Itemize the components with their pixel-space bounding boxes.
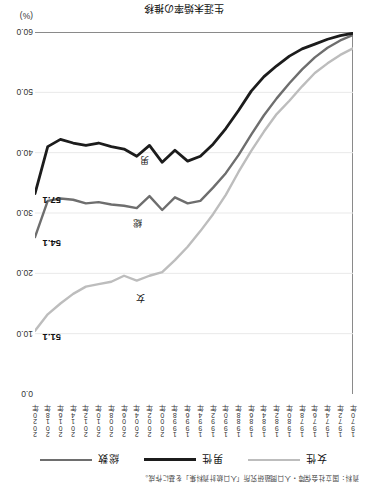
- legend-label-male: 男性: [202, 453, 223, 468]
- series-line-女性: [35, 48, 353, 330]
- x-axis-tick-label: 2012年: [82, 406, 89, 439]
- x-axis-tick-label: 1970年: [350, 406, 357, 439]
- y-axis-tick-label: 20.0: [16, 268, 33, 278]
- y-axis-tick-label: 10.0: [16, 329, 33, 339]
- x-axis-tick-label: 2004年: [133, 406, 140, 439]
- x-axis-tick-label: 1996年: [184, 406, 191, 439]
- x-axis-tick-label: 2008年: [108, 406, 115, 439]
- legend-swatch-male-icon: [145, 459, 197, 462]
- legend-label-total: 総数: [98, 453, 119, 468]
- line-chart-svg: [35, 32, 353, 394]
- x-axis-tick-label: 1974年: [324, 406, 331, 439]
- legend-swatch-female-icon: [249, 459, 301, 461]
- x-axis-tick-label: 1978年: [299, 406, 306, 439]
- series-line-男性: [35, 33, 353, 193]
- source-note: 資料：国立社会保障・人口問題研究所「人口統計資料集」を基に作成。: [8, 474, 359, 484]
- x-axis-tick-label: 1998年: [171, 406, 178, 439]
- page-title: 生涯未婚率の推移: [0, 2, 367, 17]
- x-axis-tick-label: 2018年: [44, 406, 51, 439]
- x-axis-tick-label: 1982年: [273, 406, 280, 439]
- y-axis-tick-label: 60.0: [16, 27, 33, 37]
- plot-area: [35, 32, 353, 394]
- x-axis-tick-label: 1990年: [222, 406, 229, 439]
- x-axis-tick-label: 1986年: [248, 406, 255, 439]
- y-axis-labels: 0.010.020.030.040.050.060.0: [2, 32, 33, 394]
- legend-item-male[interactable]: 男性: [145, 453, 223, 468]
- chart-legend: 女性 男性 総数: [0, 448, 367, 472]
- x-axis-tick-label: 2020年: [32, 406, 39, 439]
- x-axis-tick-label: 2002年: [146, 406, 153, 439]
- series-annotation: 女: [136, 292, 145, 305]
- end-value-label-男性: 57.1: [43, 195, 62, 206]
- rotated-figure-container: 資料：国立社会保障・人口問題研究所「人口統計資料集」を基に作成。 女性 男性 総…: [0, 0, 367, 486]
- y-axis-tick-label: 50.0: [16, 87, 33, 97]
- x-axis-tick-label: 1984年: [260, 406, 267, 439]
- legend-swatch-total-icon: [41, 459, 93, 461]
- x-axis-labels: 1970年1972年1974年1976年1978年1980年1982年1984年…: [35, 396, 353, 438]
- x-axis-tick-label: 2006年: [121, 406, 128, 439]
- x-axis-tick-label: 1994年: [197, 406, 204, 439]
- end-value-label-総数: 54.1: [43, 238, 62, 249]
- x-axis-tick-label: 1980年: [286, 406, 293, 439]
- x-axis-tick-label: 2000年: [159, 406, 166, 439]
- legend-item-total[interactable]: 総数: [41, 453, 119, 468]
- x-axis-tick-label: 1972年: [337, 406, 344, 439]
- y-axis-tick-label: 0.0: [21, 389, 33, 399]
- legend-label-female: 女性: [306, 453, 327, 468]
- y-axis-tick-label: 30.0: [16, 208, 33, 218]
- x-axis-tick-label: 1988年: [235, 406, 242, 439]
- series-annotation: 男: [140, 154, 149, 167]
- end-value-label-女性: 51.1: [43, 332, 62, 343]
- x-axis-tick-label: 1976年: [311, 406, 318, 439]
- x-axis-tick-label: 2016年: [57, 406, 64, 439]
- legend-item-female[interactable]: 女性: [249, 453, 327, 468]
- x-axis-tick-label: 2010年: [95, 406, 102, 439]
- x-axis-tick-label: 2014年: [70, 406, 77, 439]
- y-axis-tick-label: 40.0: [16, 148, 33, 158]
- series-line-総数: [35, 35, 353, 237]
- x-axis-tick-label: 1992年: [210, 406, 217, 439]
- series-annotation: 総: [133, 217, 142, 230]
